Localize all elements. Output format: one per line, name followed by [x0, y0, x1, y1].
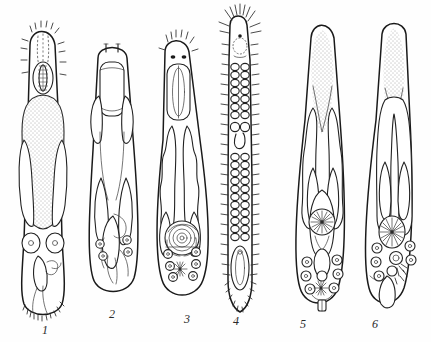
figure-6-stellate-ovary — [379, 216, 405, 248]
figure-4-label: 4 — [233, 314, 239, 328]
figure-3-oral-sucker — [167, 64, 190, 120]
figure-5-stellate-ovary — [309, 209, 335, 235]
figure-2-label: 2 — [109, 307, 115, 321]
plate-canvas: 1 — [0, 0, 431, 342]
figure-3: 3 — [157, 30, 208, 326]
figure-3-label: 3 — [183, 312, 190, 326]
figure-6: 6 — [365, 24, 416, 332]
scientific-plate: 1 — [0, 0, 431, 342]
figure-5-stellate-gland — [314, 281, 328, 295]
figure-1: 1 — [19, 21, 67, 337]
figure-2: 2 — [89, 44, 138, 321]
figure-6-label: 6 — [372, 317, 378, 331]
figure-1-oral-sucker — [33, 62, 53, 94]
figure-5: 5 — [296, 25, 345, 331]
figure-2-oral-sucker — [100, 62, 124, 116]
figure-5-label: 5 — [300, 317, 306, 331]
figure-1-label: 1 — [42, 323, 48, 337]
figure-4-terminal-organ — [231, 246, 249, 290]
figure-4: 4 — [219, 4, 261, 328]
